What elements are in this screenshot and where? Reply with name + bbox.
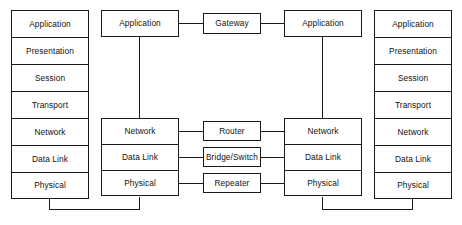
device-label: Router [219,127,245,135]
right-layer-transport: Transport [374,91,452,118]
router-left-stub [179,131,203,132]
right-layer-physical: Physical [374,172,452,199]
bridge-right-stub [261,157,284,158]
layer-label: Transport [395,101,431,109]
device-label: Repeater [215,179,250,187]
device-bridge-switch-box: Bridge/Switch [203,147,261,167]
left-layer-transport: Transport [11,91,89,118]
layer-label: Physical [34,181,66,189]
device-label: Bridge/Switch [206,153,258,161]
left-link-horizontal [49,209,140,210]
layer-label: Physical [307,179,339,187]
mid-left-layer-physical: Physical [101,170,179,196]
right-layer-presentation: Presentation [374,37,452,64]
mid-right-layer-physical: Physical [284,170,362,196]
left-layer-datalink: Data Link [11,145,89,172]
layer-label: Physical [397,181,429,189]
layer-label: Application [119,19,161,27]
gateway-left-stub [179,23,203,24]
left-layer-session: Session [11,64,89,91]
left-layer-network: Network [11,118,89,145]
router-right-stub [261,131,284,132]
right-layer-application: Application [374,10,452,37]
layer-label: Data Link [32,155,68,163]
layer-label: Data Link [305,153,341,161]
osi-layer-diagram: Application Presentation Session Transpo… [0,0,462,225]
mid-left-application-box: Application [101,10,179,37]
bridge-left-stub [179,157,203,158]
right-link-horizontal [322,209,413,210]
right-host-stack: Application Presentation Session Transpo… [374,10,452,199]
layer-label: Data Link [395,155,431,163]
mid-right-lower-stack: Network Data Link Physical [284,118,362,196]
layer-label: Application [302,19,344,27]
layer-label: Presentation [389,47,437,55]
right-layer-datalink: Data Link [374,145,452,172]
layer-label: Physical [124,179,156,187]
repeater-left-stub [179,183,203,184]
left-host-stack: Application Presentation Session Transpo… [11,10,89,199]
layer-label: Application [29,20,71,28]
device-label: Gateway [215,19,248,27]
left-layer-application: Application [11,10,89,37]
right-layer-session: Session [374,64,452,91]
device-gateway-box: Gateway [203,13,261,34]
mid-left-layer-network: Network [101,118,179,144]
repeater-right-stub [261,183,284,184]
layer-label: Presentation [26,47,74,55]
layer-label: Network [397,128,428,136]
gateway-right-stub [261,23,284,24]
layer-label: Session [35,74,65,82]
right-layer-network: Network [374,118,452,145]
left-layer-presentation: Presentation [11,37,89,64]
mid-left-layer-datalink: Data Link [101,144,179,170]
layer-label: Session [398,74,428,82]
mid-left-lower-stack: Network Data Link Physical [101,118,179,196]
device-router-box: Router [203,121,261,141]
mid-right-layer-datalink: Data Link [284,144,362,170]
left-link-drop-node [139,197,140,210]
layer-label: Transport [32,101,68,109]
mid-left-vertical-connector [139,36,140,119]
layer-label: Network [124,127,155,135]
layer-label: Data Link [122,153,158,161]
layer-label: Network [34,128,65,136]
mid-right-application-box: Application [284,10,362,37]
mid-right-vertical-connector [322,36,323,119]
layer-label: Network [307,127,338,135]
left-layer-physical: Physical [11,172,89,199]
layer-label: Application [392,20,434,28]
device-repeater-box: Repeater [203,173,261,193]
mid-right-layer-network: Network [284,118,362,144]
